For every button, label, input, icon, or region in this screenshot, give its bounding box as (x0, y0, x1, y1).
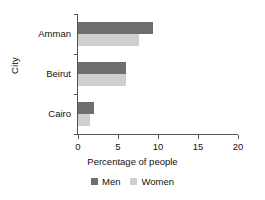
bar-amman-men (78, 22, 153, 34)
legend: Men Women (0, 176, 265, 187)
legend-entry-men: Men (91, 176, 120, 187)
category-label-amman: Amman (1, 28, 71, 39)
x-axis-tick-label: 20 (223, 141, 253, 152)
x-axis-tick-label: 10 (143, 141, 173, 152)
category-label-beirut: Beirut (1, 68, 71, 79)
x-axis-tick-label: 5 (103, 141, 133, 152)
legend-entry-women: Women (130, 176, 174, 187)
category-label-cairo: Cairo (1, 108, 71, 119)
bar-beirut-men (78, 62, 126, 74)
legend-label-men: Men (102, 176, 120, 187)
bar-cairo-women (78, 114, 90, 126)
x-axis-tick (78, 135, 79, 139)
x-axis-tick-label: 15 (183, 141, 213, 152)
bar-beirut-women (78, 74, 126, 86)
legend-swatch-women (130, 178, 137, 185)
x-axis-title: Percentage of people (0, 156, 265, 167)
bar-chart: City 0 5 10 15 20 Amman Beirut Cairo Per… (0, 0, 265, 200)
x-axis-tick (238, 135, 239, 139)
legend-label-women: Women (141, 176, 174, 187)
bar-cairo-men (78, 102, 94, 114)
y-axis-title: City (9, 36, 20, 96)
x-axis-tick (118, 135, 119, 139)
y-axis-tick (74, 14, 78, 15)
legend-swatch-men (91, 178, 98, 185)
x-axis-tick (198, 135, 199, 139)
y-axis-tick (74, 94, 78, 95)
x-axis-tick-label: 0 (63, 141, 93, 152)
plot-area: 0 5 10 15 20 Amman Beirut Cairo (78, 14, 238, 134)
y-axis-tick (74, 54, 78, 55)
x-axis-tick (158, 135, 159, 139)
bar-amman-women (78, 34, 139, 46)
